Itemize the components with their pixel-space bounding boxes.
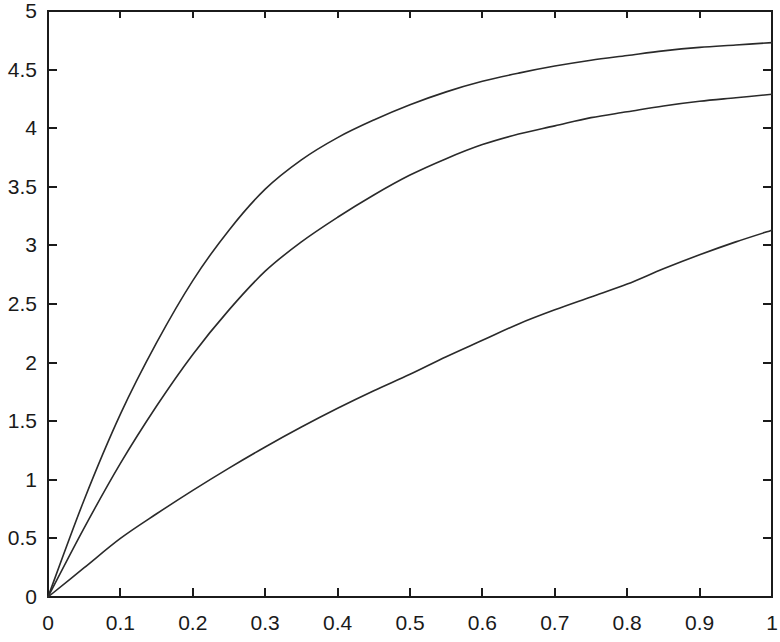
- x-tick-label: 0: [42, 611, 54, 634]
- y-tick-label: 2.5: [8, 292, 37, 315]
- line-chart: 00.10.20.30.40.50.60.70.80.91 00.511.522…: [0, 0, 780, 642]
- y-tick-label: 4: [25, 116, 37, 139]
- x-tick-label: 0.7: [540, 611, 569, 634]
- y-tick-label: 4.5: [8, 58, 37, 81]
- chart-background: [0, 0, 780, 642]
- x-tick-label: 0.8: [613, 611, 642, 634]
- y-tick-label: 2: [25, 351, 37, 374]
- x-tick-label: 1: [766, 611, 778, 634]
- y-tick-label: 1: [25, 468, 37, 491]
- y-tick-label: 3: [25, 233, 37, 256]
- y-tick-label: 0.5: [8, 526, 37, 549]
- x-tick-label: 0.9: [685, 611, 714, 634]
- x-tick-label: 0.3: [251, 611, 280, 634]
- y-tick-label: 1.5: [8, 409, 37, 432]
- y-tick-label: 5: [25, 0, 37, 22]
- figure-canvas: 00.10.20.30.40.50.60.70.80.91 00.511.522…: [0, 0, 780, 642]
- y-tick-label: 0: [25, 585, 37, 608]
- x-tick-label: 0.1: [106, 611, 135, 634]
- y-tick-label: 3.5: [8, 175, 37, 198]
- x-tick-label: 0.4: [323, 611, 353, 634]
- x-tick-label: 0.5: [395, 611, 424, 634]
- x-tick-label: 0.6: [468, 611, 497, 634]
- x-tick-label: 0.2: [178, 611, 207, 634]
